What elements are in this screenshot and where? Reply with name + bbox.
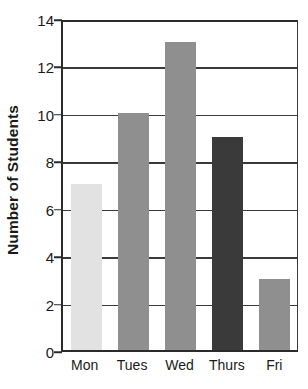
y-axis-tick-label: 14 bbox=[32, 13, 54, 28]
y-axis-tick-labels: 02468101214 bbox=[30, 0, 54, 389]
bar-slot bbox=[251, 20, 298, 350]
x-axis-tick-label: Thurs bbox=[203, 358, 250, 373]
plot-area bbox=[61, 20, 298, 352]
y-axis-tick-label: 6 bbox=[32, 202, 54, 217]
x-axis-tick-label: Mon bbox=[61, 358, 108, 373]
x-axis-tick-labels: MonTuesWedThursFri bbox=[61, 358, 298, 382]
y-axis-tick-label: 2 bbox=[32, 297, 54, 312]
x-axis-tick-label: Wed bbox=[156, 358, 203, 373]
bar-slot bbox=[63, 20, 110, 350]
bar-slot bbox=[110, 20, 157, 350]
bar[interactable] bbox=[118, 113, 149, 350]
bar-series bbox=[63, 20, 298, 350]
y-axis-tick-label: 10 bbox=[32, 107, 54, 122]
bar[interactable] bbox=[259, 279, 290, 350]
bar[interactable] bbox=[165, 42, 196, 350]
y-axis-tick-label: 4 bbox=[32, 250, 54, 265]
x-axis-tick-label: Fri bbox=[251, 358, 298, 373]
bar[interactable] bbox=[71, 184, 102, 350]
x-axis-tick-label: Tues bbox=[108, 358, 155, 373]
y-axis-tick-label: 0 bbox=[32, 345, 54, 360]
y-axis-tick-label: 12 bbox=[32, 60, 54, 75]
bar-slot bbox=[204, 20, 251, 350]
y-axis-tick-label: 8 bbox=[32, 155, 54, 170]
bar-slot bbox=[157, 20, 204, 350]
y-axis-title-label: Number of Students bbox=[4, 105, 22, 255]
bar[interactable] bbox=[212, 137, 243, 350]
y-axis-title: Number of Students bbox=[0, 0, 26, 360]
bar-chart: Number of Students 02468101214 MonTuesWe… bbox=[0, 0, 308, 389]
